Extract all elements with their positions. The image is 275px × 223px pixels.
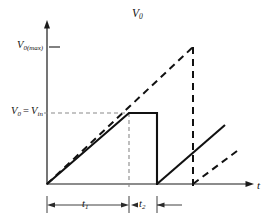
figure-canvas: V0 t V0(max) V0 = Vin t1 t2 [0,0,275,223]
dimension-lines-group [47,196,182,213]
actual-output-cycle1 [47,113,157,185]
dim-arrow-t1-left [47,202,55,207]
ideal-ramp-group [47,47,241,186]
y-tick-label-vin-subscript: in [37,110,42,117]
ideal-ramp-cycle1-rise [47,47,193,184]
y-tick-label-vomax-paren: (max) [27,44,43,51]
y-tick-label-vomax: V0(max) [17,40,43,51]
x-axis-label: t [257,180,260,191]
actual-output-group [47,113,225,185]
dim-arrow-t2-left [131,202,138,207]
dim-label-t2-subscript: 2 [142,203,145,210]
x-axis-label-symbol: t [257,179,260,191]
actual-output-cycle2 [157,125,225,184]
y-axis-arrowhead [44,20,50,29]
y-axis-label-subscript: 0 [139,12,143,21]
ideal-ramp-cycle2-rise [193,148,241,184]
dim-arrow-t1-right [121,202,129,207]
dim-label-t1: t1 [82,199,88,210]
y-axis-label: V0 [132,8,143,20]
dim-label-t2: t2 [139,199,145,210]
x-axis-arrowhead [246,181,255,187]
dim-label-t1-subscript: 1 [85,203,88,210]
y-tick-label-vo-equals-vin: V0 = Vin [11,106,43,117]
